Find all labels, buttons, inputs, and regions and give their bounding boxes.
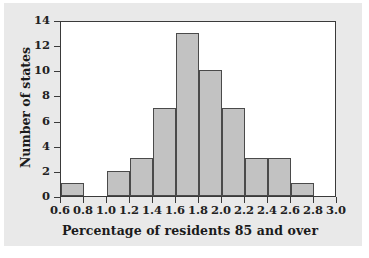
histogram-bar <box>245 158 268 196</box>
histogram-figure: Number of states 02468101214 0.60.81.01.… <box>0 0 369 258</box>
y-axis-tick-label: 10 <box>14 65 50 77</box>
y-axis-tick-label: 12 <box>14 40 50 52</box>
histogram-bar <box>61 183 84 196</box>
histogram-bar <box>107 171 130 196</box>
y-axis-tick-label: 14 <box>14 15 50 27</box>
y-axis-tick-label: 6 <box>14 116 50 128</box>
y-axis-tick <box>54 147 60 148</box>
y-axis-tick <box>54 122 60 123</box>
y-axis-tick-label: 0 <box>14 191 50 203</box>
y-axis-tick-label: 4 <box>14 141 50 153</box>
x-axis-title: Percentage of residents 85 and over <box>40 223 340 238</box>
x-axis-tick-label: 3.0 <box>321 205 351 217</box>
histogram-bar <box>291 183 314 196</box>
histogram-bar <box>153 108 176 196</box>
histogram-bar <box>130 158 153 196</box>
y-axis-tick <box>54 71 60 72</box>
histogram-bar <box>176 33 199 196</box>
y-axis-tick-label: 8 <box>14 90 50 102</box>
y-axis-tick <box>54 96 60 97</box>
bars-layer <box>61 22 335 196</box>
histogram-bar <box>199 70 222 196</box>
histogram-bar <box>268 158 291 196</box>
y-axis-tick <box>54 46 60 47</box>
y-axis-tick <box>54 21 60 22</box>
plot-area <box>60 21 336 197</box>
y-axis-tick <box>54 172 60 173</box>
y-axis-tick-label: 2 <box>14 166 50 178</box>
histogram-bar <box>222 108 245 196</box>
